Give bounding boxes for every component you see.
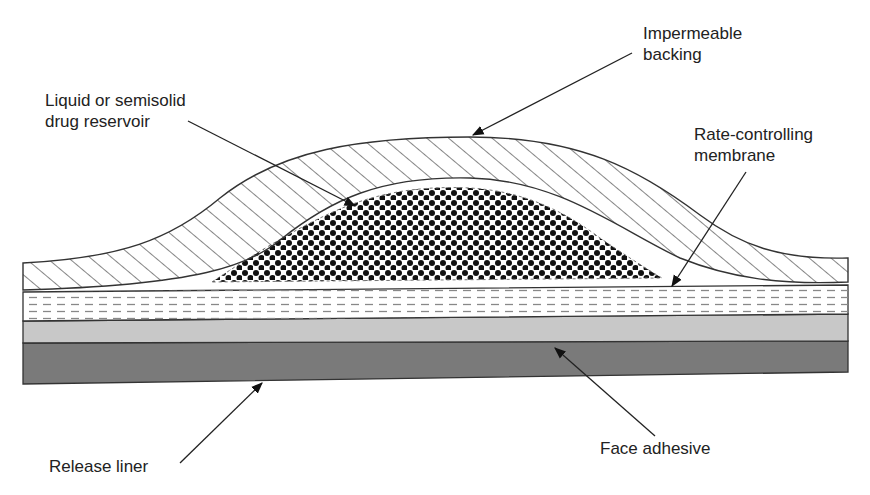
label-rate-controlling-membrane: Rate-controlling membrane (694, 124, 813, 166)
label-drug-reservoir: Liquid or semisolid drug reservoir (45, 90, 186, 132)
release-liner-arrow (180, 383, 262, 463)
label-impermeable-backing: Impermeable backing (643, 23, 742, 65)
release-liner-layer (23, 341, 848, 384)
label-release-liner: Release liner (49, 456, 148, 477)
transdermal-patch-diagram (0, 0, 870, 495)
impermeable-backing-arrow (473, 53, 632, 135)
label-face-adhesive: Face adhesive (600, 438, 711, 459)
